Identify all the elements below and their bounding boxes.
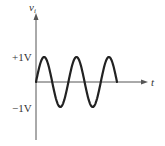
y-axis-label: vi [29,1,36,15]
x-axis-arrow-icon [141,80,148,85]
upper-level-label: +1V [12,51,32,63]
x-axis-label: t [151,76,155,88]
waveform-diagram: vi t +1V −1V [0,0,165,146]
lower-level-label: −1V [12,102,32,114]
